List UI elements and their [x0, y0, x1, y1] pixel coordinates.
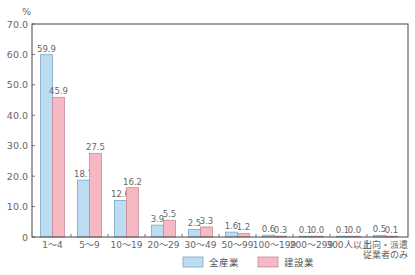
bar-construction — [238, 233, 250, 237]
bar-construction — [90, 153, 102, 237]
bar-construction — [53, 97, 65, 237]
x-tick-label: 1～4 — [42, 240, 63, 250]
x-tick-label: 出向・派遣 — [363, 239, 408, 250]
bar-all-industries — [78, 180, 90, 237]
x-tick-label: 10～19 — [111, 240, 143, 250]
data-label: 0.3 — [274, 225, 288, 235]
y-tick-label: 40.0 — [7, 110, 28, 121]
bar-construction — [164, 220, 176, 237]
bars: 59.945.918.727.512.016.23.95.52.53.31.61… — [37, 44, 398, 237]
legend-label: 全産業 — [209, 257, 239, 268]
y-tick-label: 70.0 — [7, 19, 28, 30]
y-tick-label: 60.0 — [7, 49, 28, 60]
y-tick-label: 0 — [22, 232, 28, 243]
bar-all-industries — [41, 55, 53, 237]
y-tick-label: 30.0 — [7, 140, 28, 151]
data-label: 27.5 — [86, 142, 105, 152]
y-tick-label: 20.0 — [7, 171, 28, 182]
legend-swatch — [183, 257, 203, 267]
bar-all-industries — [226, 232, 238, 237]
data-label: 0.0 — [348, 225, 362, 235]
y-axis: %010.020.030.040.050.060.070.0 — [7, 6, 35, 243]
x-tick-label: 5～9 — [79, 240, 100, 250]
x-tick-label: 従業者のみ — [363, 249, 408, 260]
x-tick-label: 30～49 — [185, 240, 217, 250]
y-tick-label: 50.0 — [7, 79, 28, 90]
data-label: 45.9 — [49, 86, 68, 96]
bar-chart: %010.020.030.040.050.060.070.0 59.945.91… — [0, 0, 415, 275]
bar-all-industries — [152, 225, 164, 237]
legend: 全産業建設業 — [183, 257, 314, 268]
legend-label: 建設業 — [284, 257, 314, 268]
bar-construction — [201, 227, 213, 237]
data-label: 16.2 — [123, 177, 142, 187]
bar-all-industries — [115, 200, 127, 237]
data-label: 59.9 — [37, 44, 56, 54]
data-label: 3.3 — [200, 216, 214, 226]
data-label: 5.5 — [163, 209, 177, 219]
x-tick-label: 20～29 — [148, 240, 180, 250]
y-tick-label: 10.0 — [7, 201, 28, 212]
y-axis-unit: % — [22, 6, 31, 17]
data-label: 0.1 — [385, 225, 399, 235]
data-label: 0.0 — [311, 225, 325, 235]
data-label: 1.2 — [237, 222, 251, 232]
bar-construction — [127, 188, 139, 237]
legend-swatch — [258, 257, 278, 267]
x-tick-label: 50～99 — [222, 240, 254, 250]
bar-all-industries — [189, 229, 201, 237]
